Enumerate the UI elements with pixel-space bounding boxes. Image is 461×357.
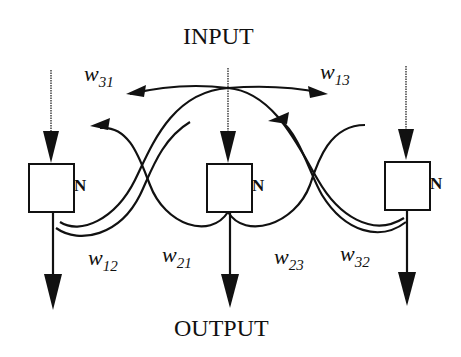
node-2: N bbox=[207, 164, 265, 212]
arc-center-to-right bbox=[228, 88, 406, 232]
recurrent-network-diagram: INPUT OUTPUT N bbox=[0, 0, 461, 357]
node-1-label: N bbox=[74, 176, 87, 195]
arc-center-to-left bbox=[56, 88, 228, 236]
node-2-label: N bbox=[252, 176, 265, 195]
input-arrow-2 bbox=[220, 68, 236, 163]
weight-label-w12: w12 bbox=[88, 245, 118, 274]
input-title: INPUT bbox=[183, 23, 254, 49]
output-title: OUTPUT bbox=[174, 315, 269, 341]
weight-label-w31: w31 bbox=[84, 61, 114, 90]
weight-label-w23: w23 bbox=[274, 244, 304, 273]
weight-label-w32: w32 bbox=[340, 241, 370, 270]
node-3-label: N bbox=[430, 174, 443, 193]
input-arrow-1 bbox=[43, 70, 59, 163]
node-1: N bbox=[29, 164, 87, 212]
node-3: N bbox=[385, 162, 443, 210]
output-arrow-2 bbox=[221, 212, 239, 308]
weight-label-w13: w13 bbox=[320, 59, 350, 88]
input-arrow-3 bbox=[398, 66, 414, 160]
output-arrow-1 bbox=[44, 212, 62, 310]
weight-label-w21: w21 bbox=[162, 242, 192, 271]
